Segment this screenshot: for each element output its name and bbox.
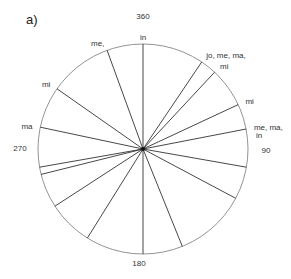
ray-label: mi <box>220 62 229 71</box>
ray-line <box>143 149 246 167</box>
ray-label-group: injo, me, ma,mimime, ma,inmamime, <box>21 33 282 140</box>
panel-label: a) <box>26 12 38 27</box>
ray-line <box>143 105 238 149</box>
ray-line <box>40 149 143 167</box>
ray-line <box>107 50 143 149</box>
ray-line <box>143 149 182 246</box>
ray-label: jo, me, ma, <box>205 51 246 60</box>
ray-label: in <box>140 33 146 42</box>
ray-line <box>87 149 143 238</box>
ray-label: me, <box>91 39 104 48</box>
ray-line <box>55 149 143 206</box>
ray-label: ma <box>21 122 33 131</box>
center-point <box>141 147 145 151</box>
axis-label-east: 90 <box>262 146 271 155</box>
axis-label-west: 270 <box>13 144 27 153</box>
axis-label-north: 360 <box>136 12 150 21</box>
ray-line <box>143 149 236 198</box>
rose-diagram: a) injo, me, ma,mimime, ma,inmamime, 360… <box>0 0 291 279</box>
ray-label: mi <box>42 80 51 89</box>
ray-label: mi <box>245 97 254 106</box>
ray-line <box>143 62 202 149</box>
ray-label-line2: in <box>256 131 262 140</box>
ray-line <box>41 149 143 174</box>
axis-label-south: 180 <box>132 259 146 268</box>
